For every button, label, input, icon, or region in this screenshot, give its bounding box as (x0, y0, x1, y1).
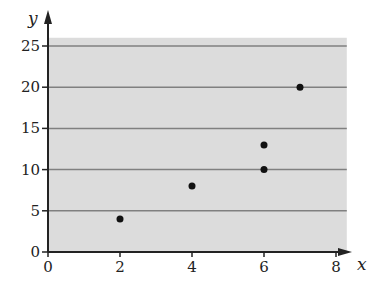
y-tick-label: 10 (21, 161, 40, 179)
x-tick-label: 6 (259, 258, 269, 276)
data-point (189, 183, 196, 190)
x-tick-label: 8 (331, 258, 341, 276)
y-tick-label: 0 (30, 243, 40, 261)
data-point (261, 166, 268, 173)
scatter-chart: 051015202502468xy (0, 0, 373, 286)
y-axis-arrow-icon (44, 10, 52, 24)
y-tick-label: 5 (30, 202, 40, 220)
y-tick-label: 15 (21, 119, 40, 137)
data-point (117, 216, 124, 223)
plot-area (48, 38, 347, 252)
data-point (297, 84, 304, 91)
x-axis-label: x (357, 254, 367, 274)
x-tick-label: 0 (43, 258, 53, 276)
y-tick-label: 20 (21, 78, 40, 96)
data-point (261, 141, 268, 148)
x-tick-label: 2 (115, 258, 125, 276)
y-axis-label: y (27, 8, 38, 28)
x-tick-label: 4 (187, 258, 197, 276)
y-tick-label: 25 (21, 37, 40, 55)
